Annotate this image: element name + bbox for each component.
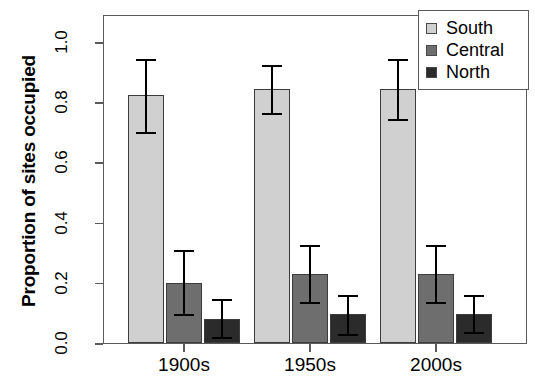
error-bar-cap-upper <box>388 59 408 61</box>
error-bar-cap-upper <box>212 299 232 301</box>
error-bar-cap-lower <box>338 334 358 336</box>
y-axis-tick-mark <box>95 102 103 104</box>
y-axis-tick-label: 0.8 <box>52 82 72 122</box>
bottom-caption <box>0 381 535 391</box>
legend-swatch-north-icon <box>426 67 437 78</box>
bar-south-2000s <box>380 89 416 343</box>
error-bar-cap-lower <box>464 332 484 334</box>
legend: SouthCentralNorth <box>418 10 529 90</box>
error-bar-stem <box>183 250 185 315</box>
error-bar-cap-lower <box>136 132 156 134</box>
y-axis-tick-mark <box>95 162 103 164</box>
error-bar-cap-upper <box>426 245 446 247</box>
y-axis-title: Proportion of sites occupied <box>18 21 40 341</box>
error-bar-stem <box>397 59 399 119</box>
y-axis-tick-mark <box>95 223 103 225</box>
error-bar-stem <box>309 245 311 302</box>
error-bar-stem <box>221 299 223 337</box>
error-bar-cap-lower <box>426 302 446 304</box>
legend-item-north: North <box>426 61 521 83</box>
legend-label: South <box>446 19 493 37</box>
error-bar-cap-lower <box>174 314 194 316</box>
x-axis-tick-mark <box>183 344 185 352</box>
y-axis-tick-mark <box>95 343 103 345</box>
error-bar-stem <box>435 245 437 302</box>
error-bar-cap-upper <box>464 295 484 297</box>
y-axis-tick-label: 0.0 <box>52 323 72 363</box>
error-bar-cap-lower <box>388 119 408 121</box>
error-bar-stem <box>271 65 273 113</box>
error-bar-cap-upper <box>136 59 156 61</box>
legend-label: Central <box>446 41 504 59</box>
y-axis-tick-label: 0.4 <box>52 203 72 243</box>
error-bar-cap-upper <box>174 250 194 252</box>
legend-item-central: Central <box>426 39 521 61</box>
x-axis-tick-label-1950s: 1950s <box>260 354 360 376</box>
x-axis-tick-label-1900s: 1900s <box>134 354 234 376</box>
bar-chart-figure: Proportion of sites occupied 0.00.20.40.… <box>0 0 535 391</box>
y-axis-tick-label: 1.0 <box>52 22 72 62</box>
legend-swatch-south-icon <box>426 23 437 34</box>
error-bar-stem <box>473 295 475 333</box>
y-axis-tick-label: 0.2 <box>52 263 72 303</box>
x-axis-tick-mark <box>309 344 311 352</box>
error-bar-cap-upper <box>262 65 282 67</box>
error-bar-cap-lower <box>262 113 282 115</box>
y-axis-tick-label: 0.6 <box>52 142 72 182</box>
error-bar-stem <box>145 59 147 133</box>
legend-swatch-central-icon <box>426 45 437 56</box>
bar-south-1950s <box>254 89 290 343</box>
error-bar-cap-lower <box>300 302 320 304</box>
x-axis-tick-mark <box>435 344 437 352</box>
legend-label: North <box>446 63 490 81</box>
error-bar-cap-upper <box>300 245 320 247</box>
y-axis-tick-mark <box>95 42 103 44</box>
error-bar-stem <box>347 295 349 334</box>
error-bar-cap-lower <box>212 337 232 339</box>
x-axis-tick-label-2000s: 2000s <box>386 354 486 376</box>
error-bar-cap-upper <box>338 295 358 297</box>
legend-item-south: South <box>426 17 521 39</box>
y-axis-tick-mark <box>95 283 103 285</box>
